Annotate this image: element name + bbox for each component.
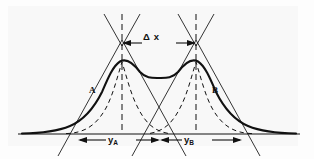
peak-label-a: A <box>89 86 96 95</box>
figure-canvas: A B Δ x yA yB <box>0 0 314 159</box>
tangent-line-b-right <box>196 40 260 156</box>
peak-overlap-diagram <box>0 0 314 159</box>
y-a-subscript: A <box>113 139 118 146</box>
y-b-arrowhead-right <box>233 137 242 143</box>
y-b-arrowhead-left <box>160 137 169 143</box>
y-a-arrowhead-right <box>151 137 160 143</box>
peak-label-b: B <box>212 86 218 95</box>
y-a-arrowhead-left <box>78 137 87 143</box>
tangent-extension-b-upper-right <box>196 14 214 46</box>
delta-x-label: Δ x <box>143 32 160 42</box>
y-b-label: yB <box>184 135 194 147</box>
tangent-extension-a-upper-left <box>104 14 122 46</box>
delta-x-arrowhead-left <box>122 40 131 46</box>
y-b-subscript: B <box>189 139 194 146</box>
component-curve-a <box>66 62 168 134</box>
delta-x-arrowhead-right <box>187 40 196 46</box>
summed-envelope-curve <box>22 60 296 133</box>
component-curve-b <box>150 62 252 134</box>
y-a-label: yA <box>108 135 118 147</box>
